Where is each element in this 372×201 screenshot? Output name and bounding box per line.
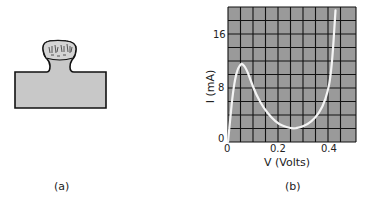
y-axis-label: I (mA)	[204, 57, 217, 117]
x-tick-0-4: 0.4	[321, 143, 337, 154]
caption-b: (b)	[285, 180, 301, 193]
caption-a: (a)	[54, 180, 69, 193]
y-tick-16: 16	[213, 29, 226, 40]
device-figure	[0, 0, 372, 201]
y-tick-8: 8	[218, 82, 224, 93]
x-tick-0-2: 0.2	[270, 143, 286, 154]
x-axis-label: V (Volts)	[264, 156, 310, 169]
x-tick-0: 0	[224, 143, 230, 154]
y-tick-0: 0	[218, 133, 224, 144]
